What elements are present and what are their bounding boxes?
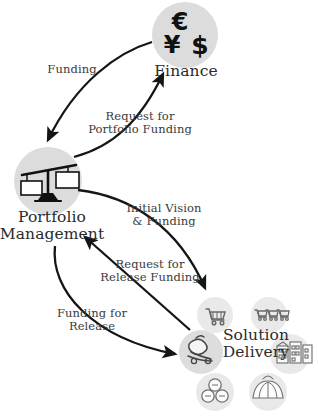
node-label-solution-delivery: Solution Delivery xyxy=(213,327,299,362)
node-label-finance: Finance xyxy=(141,63,231,80)
svg-text:$: $ xyxy=(191,31,208,60)
edge-label-request-for-portfolio-funding: Request for Portfolio Funding xyxy=(77,110,203,136)
edge-label-request-for-release-funding: Request for Release Funding xyxy=(93,258,207,284)
edge-label-funding: Funding xyxy=(32,63,112,76)
edge-label-initial-vision-and-funding: Initial Vision & Funding xyxy=(112,202,216,228)
node-label-portfolio-management: Portfolio Management xyxy=(0,209,107,244)
svg-text:¥: ¥ xyxy=(164,31,181,59)
diagram-canvas: € ¥ $ Finance Portfolio Management Solut… xyxy=(0,0,318,417)
edge-label-funding-for-release: Funding for Release xyxy=(38,307,146,333)
